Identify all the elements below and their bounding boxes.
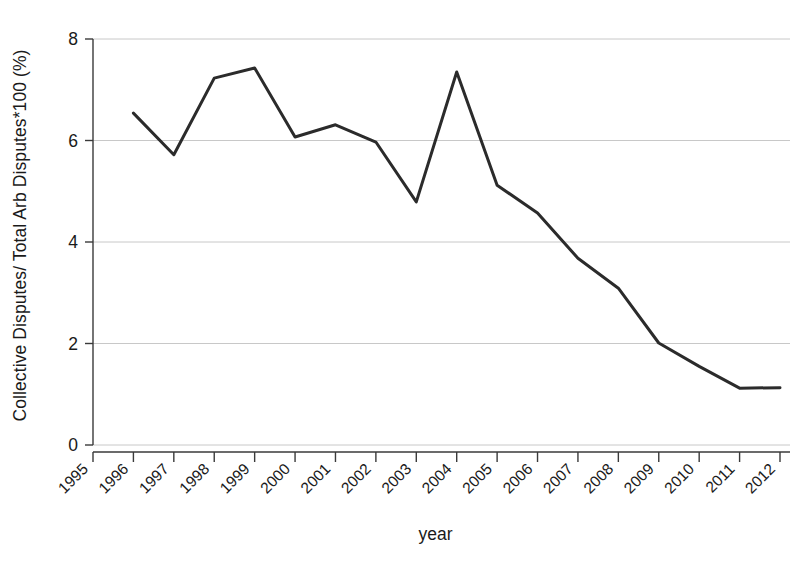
x-axis-tick-label: 2009 bbox=[620, 460, 656, 496]
chart-figure: Collective Disputes/ Total Arb Disputes*… bbox=[0, 0, 807, 565]
x-axis-tick-label: 1998 bbox=[176, 460, 212, 496]
x-axis-tick-label: 1996 bbox=[95, 460, 131, 496]
x-axis-tick-label: 2000 bbox=[257, 460, 294, 497]
x-axis-tick-label: 2012 bbox=[742, 460, 778, 496]
gridlines-group bbox=[93, 39, 790, 445]
x-axis-tick-label: 2011 bbox=[702, 460, 738, 496]
x-axis-tick-label: 1999 bbox=[216, 460, 252, 496]
x-axis-ticks-group: 1995199619971998199920002001200220032004… bbox=[55, 452, 780, 497]
x-axis-tick-label: 2010 bbox=[661, 460, 698, 497]
x-axis-title: year bbox=[0, 524, 807, 545]
x-axis-tick-label: 2006 bbox=[499, 460, 535, 496]
data-series-group bbox=[133, 68, 780, 388]
data-line bbox=[133, 68, 780, 388]
x-axis-tick-label: 2005 bbox=[459, 460, 495, 496]
y-axis-tick-label: 4 bbox=[68, 232, 78, 252]
x-axis-tick-label: 1997 bbox=[136, 460, 172, 496]
y-axis-title-text: Collective Disputes/ Total Arb Disputes*… bbox=[10, 49, 31, 421]
y-axis-tick-label: 6 bbox=[68, 131, 78, 151]
x-axis-tick-label: 2001 bbox=[297, 460, 333, 496]
x-axis-tick-label: 2002 bbox=[338, 460, 374, 496]
x-axis-tick-label: 2004 bbox=[418, 460, 455, 497]
y-axis-tick-label: 0 bbox=[68, 435, 78, 455]
line-chart-plot: 02468 1995199619971998199920002001200220… bbox=[0, 0, 807, 520]
x-axis-tick-label: 2007 bbox=[540, 460, 576, 496]
y-axis-ticks-group: 02468 bbox=[68, 29, 93, 455]
x-axis-tick-label: 2003 bbox=[378, 460, 414, 496]
y-axis-title: Collective Disputes/ Total Arb Disputes*… bbox=[0, 0, 40, 470]
x-axis-title-text: year bbox=[418, 524, 452, 544]
x-axis-tick-label: 1995 bbox=[55, 460, 91, 496]
y-axis-tick-label: 2 bbox=[68, 334, 78, 354]
y-axis-tick-label: 8 bbox=[68, 29, 78, 49]
x-axis-tick-label: 2008 bbox=[580, 460, 616, 496]
